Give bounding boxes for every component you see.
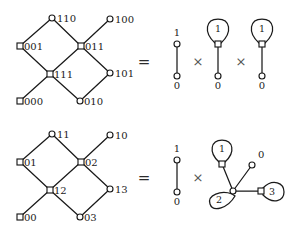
node-label-100: 100 xyxy=(115,14,134,25)
factor-node-top xyxy=(174,41,180,47)
factor-top-label-1-bottom: 1 xyxy=(174,143,180,154)
node-label-111: 111 xyxy=(54,69,73,80)
loop-label-b-1: 1 xyxy=(259,23,265,34)
factor-bottom-label-a-0: 0 xyxy=(215,80,221,91)
product-symbol-bottom-1: × xyxy=(193,170,204,185)
star-graph-with-loops: 1 2 3 0 xyxy=(210,140,284,209)
star-node-hub xyxy=(230,188,236,194)
factor-node-top-a xyxy=(215,41,221,47)
node-label-11: 11 xyxy=(57,129,70,140)
edge-hub-leaf1 xyxy=(222,164,233,191)
node-label-001: 001 xyxy=(24,41,43,52)
node-label-00: 00 xyxy=(24,212,37,223)
factor-node-bottom-bottom xyxy=(174,189,180,195)
star-node-leaf1 xyxy=(219,161,225,167)
node-label-010: 010 xyxy=(84,96,103,107)
star-edges xyxy=(222,164,261,191)
row-top: 110 100 001 011 111 101 000 010 = 1 0 xyxy=(17,13,273,107)
row-bottom: 11 10 01 02 12 13 00 03 = 1 0 xyxy=(17,129,284,223)
figure-root: 110 100 001 011 111 101 000 010 = 1 0 xyxy=(0,0,287,235)
equals-sign-top: = xyxy=(138,53,151,71)
node-101 xyxy=(107,70,113,76)
loop-label-hub-2: 2 xyxy=(216,194,222,205)
node-label-110: 110 xyxy=(57,13,76,24)
factor-bottom-label-0-bottom: 0 xyxy=(174,196,180,207)
star-nodes xyxy=(219,161,264,194)
star-label-leaf0: 0 xyxy=(258,149,264,160)
lattice-edges xyxy=(20,18,110,101)
node-011 xyxy=(78,43,84,49)
node-111 xyxy=(47,71,53,77)
product-symbol-top-1: × xyxy=(193,54,204,69)
base4-lattice: 11 10 01 02 12 13 00 03 xyxy=(17,129,128,223)
factor-edge-loop-a-top: 1 0 xyxy=(207,19,228,91)
star-node-leaf3 xyxy=(258,188,264,194)
lattice-node-labels: 110 100 001 011 111 101 000 010 xyxy=(24,13,134,107)
lattice-node-labels-bottom: 11 10 01 02 12 13 00 03 xyxy=(24,129,128,223)
node-11 xyxy=(49,131,55,137)
node-010 xyxy=(77,98,83,104)
node-label-13: 13 xyxy=(115,184,128,195)
star-node-leaf0 xyxy=(249,162,255,168)
factor-bottom-label-0: 0 xyxy=(174,80,180,91)
factor-bottom-label-b-0: 0 xyxy=(259,80,265,91)
node-01 xyxy=(17,159,23,165)
loop-label-a-1: 1 xyxy=(215,23,221,34)
self-loop-hub-2 xyxy=(210,193,235,209)
binary-cube-lattice: 110 100 001 011 111 101 000 010 xyxy=(17,13,134,107)
factor-node-bottom xyxy=(174,73,180,79)
factor-edge-plain-top: 1 0 xyxy=(174,27,180,91)
node-13 xyxy=(107,186,113,192)
loop-label-leaf1: 1 xyxy=(219,143,225,154)
node-label-000: 000 xyxy=(24,96,43,107)
node-label-101: 101 xyxy=(115,68,134,79)
node-label-10: 10 xyxy=(115,130,128,141)
edge-hub-leaf0 xyxy=(233,165,252,191)
node-000 xyxy=(17,98,23,104)
lattice-edges-bottom xyxy=(20,134,110,217)
factor-node-bottom-a xyxy=(215,73,221,79)
node-100 xyxy=(107,16,113,22)
factor-edge-loop-b-top: 1 0 xyxy=(251,19,272,91)
node-12 xyxy=(47,187,53,193)
node-label-01: 01 xyxy=(24,157,37,168)
figure-svg: 110 100 001 011 111 101 000 010 = 1 0 xyxy=(0,0,287,235)
factor-edge-plain-bottom: 1 0 xyxy=(174,143,180,207)
node-02 xyxy=(78,159,84,165)
node-label-011: 011 xyxy=(85,41,104,52)
node-03 xyxy=(77,214,83,220)
node-00 xyxy=(17,214,23,220)
node-label-03: 03 xyxy=(84,212,97,223)
factor-node-top-b xyxy=(259,41,265,47)
node-10 xyxy=(107,132,113,138)
factor-node-top-bottom xyxy=(174,157,180,163)
node-001 xyxy=(17,43,23,49)
node-label-02: 02 xyxy=(85,157,98,168)
node-label-12: 12 xyxy=(54,185,67,196)
factor-top-label-1: 1 xyxy=(174,27,180,38)
equals-sign-bottom: = xyxy=(138,169,151,187)
product-symbol-top-2: × xyxy=(236,54,247,69)
node-110 xyxy=(49,15,55,21)
loop-label-leaf3: 3 xyxy=(269,186,275,197)
factor-node-bottom-b xyxy=(259,73,265,79)
